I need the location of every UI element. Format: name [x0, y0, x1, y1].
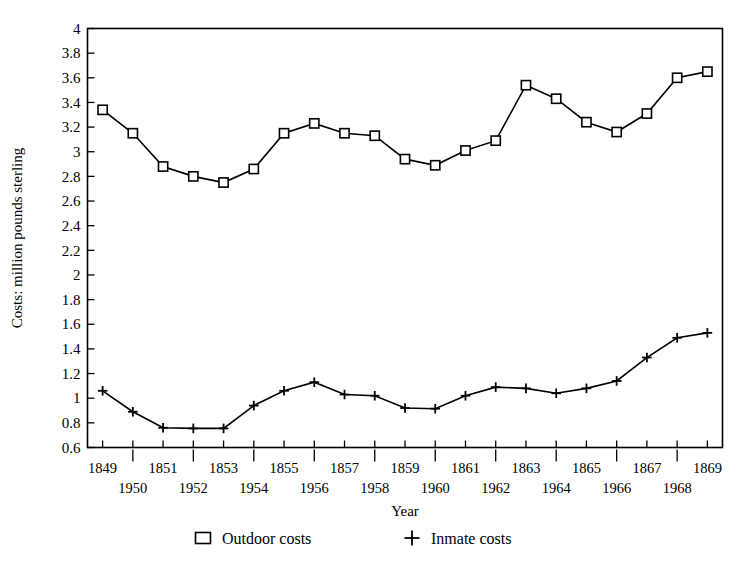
- y-tick-label: 2.6: [62, 193, 81, 209]
- y-tick-label: 3.6: [62, 70, 81, 86]
- data-point-marker-square: [521, 81, 530, 90]
- y-axis-ticks: 0.60.811.21.41.61.822.22.42.62.833.23.43…: [62, 21, 95, 456]
- data-point-marker-square: [219, 178, 228, 187]
- data-point-marker-square: [461, 146, 470, 155]
- data-point-marker-square: [189, 172, 198, 181]
- x-tick-label-upper: 1849: [88, 460, 117, 476]
- data-point-marker-square: [582, 118, 591, 127]
- data-point-marker-square: [703, 67, 712, 76]
- series-outdoor-costs: [98, 67, 712, 187]
- data-point-marker-square: [431, 161, 440, 170]
- x-tick-label-upper: 1861: [451, 460, 480, 476]
- series-inmate-costs: [98, 328, 712, 433]
- plot-area-border: [88, 29, 723, 448]
- y-tick-label: 1: [73, 390, 81, 406]
- x-tick-label-lower: 1968: [663, 480, 692, 496]
- y-tick-label: 0.8: [62, 415, 81, 431]
- x-tick-label-lower: 1966: [602, 480, 631, 496]
- x-tick-label-upper: 1855: [270, 460, 299, 476]
- data-point-marker-square: [249, 164, 258, 173]
- chart-figure: 0.60.811.21.41.61.822.22.42.62.833.23.43…: [0, 0, 739, 562]
- data-point-marker-square: [491, 136, 500, 145]
- chart-legend: Outdoor costsInmate costs: [196, 530, 512, 547]
- data-point-marker-square: [642, 109, 651, 118]
- x-tick-label-lower: 1956: [300, 480, 329, 496]
- x-tick-label-upper: 1851: [149, 460, 178, 476]
- x-tick-label-lower: 1954: [239, 480, 269, 496]
- data-point-marker-square: [552, 94, 561, 103]
- x-tick-label-lower: 1958: [360, 480, 389, 496]
- x-tick-label-lower: 1950: [118, 480, 147, 496]
- y-tick-label: 1.2: [62, 366, 81, 382]
- x-tick-label-upper: 1853: [209, 460, 238, 476]
- y-tick-label: 2: [73, 267, 81, 283]
- data-series-group: [98, 67, 712, 433]
- legend-label-inmate-costs: Inmate costs: [431, 530, 511, 547]
- x-tick-label-upper: 1869: [693, 460, 722, 476]
- data-point-marker-square: [279, 129, 288, 138]
- x-axis-title: Year: [391, 503, 419, 519]
- x-tick-label-lower: 1964: [542, 480, 572, 496]
- y-tick-label: 3.4: [62, 95, 81, 111]
- y-tick-label: 1.8: [62, 292, 81, 308]
- y-tick-label: 3.8: [62, 45, 81, 61]
- data-point-marker-square: [370, 131, 379, 140]
- y-tick-label: 2.4: [62, 218, 81, 234]
- x-tick-label-upper: 1867: [632, 460, 661, 476]
- data-point-marker-square: [673, 73, 682, 82]
- y-tick-label: 2.2: [62, 243, 81, 259]
- x-axis-ticks: 1849185118531855185718591861186318651867…: [88, 441, 722, 496]
- line-chart: 0.60.811.21.41.61.822.22.42.62.833.23.43…: [0, 0, 739, 562]
- y-tick-label: 3.2: [62, 119, 81, 135]
- y-tick-label: 1.4: [62, 341, 81, 357]
- y-tick-label: 0.6: [62, 440, 81, 456]
- x-tick-label-upper: 1859: [391, 460, 420, 476]
- data-point-marker-square: [612, 127, 621, 136]
- x-tick-label-upper: 1863: [511, 460, 540, 476]
- plot-frame: [88, 29, 723, 448]
- y-tick-label: 4: [73, 21, 81, 37]
- y-tick-label: 3: [73, 144, 81, 160]
- data-point-marker-square: [340, 129, 349, 138]
- data-point-marker-square: [98, 105, 107, 114]
- y-tick-label: 2.8: [62, 169, 81, 185]
- x-tick-label-upper: 1865: [572, 460, 601, 476]
- x-tick-label-lower: 1960: [421, 480, 450, 496]
- x-tick-label-lower: 1952: [179, 480, 208, 496]
- y-tick-label: 1.6: [62, 316, 81, 332]
- data-point-marker-square: [310, 119, 319, 128]
- y-axis-title: Costs: million pounds sterling: [9, 147, 25, 328]
- data-point-marker-square: [400, 155, 409, 164]
- x-tick-label-upper: 1857: [330, 460, 359, 476]
- legend-marker-square: [196, 533, 211, 544]
- data-point-marker-square: [128, 129, 137, 138]
- legend-label-outdoor-costs: Outdoor costs: [222, 530, 311, 547]
- data-point-marker-square: [159, 162, 168, 171]
- x-tick-label-lower: 1962: [481, 480, 510, 496]
